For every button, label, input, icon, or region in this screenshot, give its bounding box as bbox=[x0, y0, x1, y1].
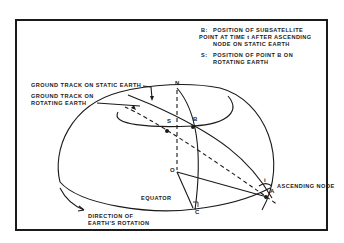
legend-s-line2: ROTATING EARTH bbox=[213, 59, 269, 66]
static-track-arrow bbox=[150, 96, 154, 101]
line-o-c bbox=[177, 172, 193, 208]
static-ground-track bbox=[128, 95, 272, 198]
point-b-marker bbox=[191, 125, 195, 129]
rotating-ground-track bbox=[125, 107, 278, 205]
legend-b-key: B: bbox=[201, 27, 208, 34]
legend-s-line1: POSITION OF POINT B ON bbox=[213, 52, 293, 59]
point-s-label: S bbox=[167, 118, 171, 124]
legend-b-line3: NODE ON STATIC EARTH bbox=[213, 41, 290, 48]
legend-b-line1: POSITION OF SUBSATELLITE bbox=[213, 27, 303, 34]
legend-s-key: S: bbox=[201, 52, 208, 59]
point-a-label: A bbox=[270, 188, 274, 194]
point-a-marker bbox=[264, 195, 268, 199]
point-b-label: B bbox=[193, 116, 197, 122]
inclination-label: i bbox=[264, 177, 266, 183]
point-n-label: N bbox=[175, 80, 179, 86]
point-s-marker bbox=[165, 129, 169, 133]
rotating-track-label-2: ROTATING EARTH bbox=[31, 100, 87, 107]
equator-label: EQUATOR bbox=[141, 195, 172, 202]
point-o-label: O bbox=[170, 167, 175, 173]
line-o-a bbox=[177, 172, 267, 197]
static-track-label: GROUND TRACK ON STATIC EARTH bbox=[31, 82, 141, 89]
inclination-arc bbox=[259, 184, 272, 186]
ascending-node-label: ASCENDING NODE bbox=[277, 183, 335, 190]
legend-b-line2: POINT AT TIME t AFTER ASCENDING bbox=[199, 34, 312, 41]
meridian bbox=[177, 88, 198, 210]
rotation-label-1: DIRECTION OF bbox=[88, 213, 134, 220]
point-c-label: C bbox=[195, 209, 199, 215]
rotating-track-label-1: GROUND TRACK ON bbox=[31, 93, 94, 100]
hemisphere-outline bbox=[58, 85, 274, 210]
rotation-label-2: EARTH'S ROTATION bbox=[88, 220, 149, 227]
